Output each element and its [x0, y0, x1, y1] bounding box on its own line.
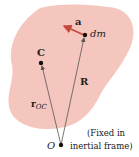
- label-oc-subscript: OC: [36, 103, 48, 111]
- label-a: a: [75, 16, 82, 27]
- label-O: O: [47, 140, 55, 151]
- origin-point: [59, 143, 63, 147]
- label-dm: dm: [90, 28, 106, 39]
- rigid-body-diagram: a dm C R rOC O (Fixed in inertial frame): [0, 0, 139, 157]
- rigid-body-shape: [9, 5, 134, 130]
- mass-element-point: [83, 33, 87, 37]
- frame-note-line2: inertial frame): [70, 141, 133, 151]
- label-C: C: [37, 47, 45, 58]
- center-of-mass-point: [39, 61, 43, 65]
- label-R: R: [80, 76, 89, 87]
- frame-note-line1: (Fixed in: [87, 128, 126, 138]
